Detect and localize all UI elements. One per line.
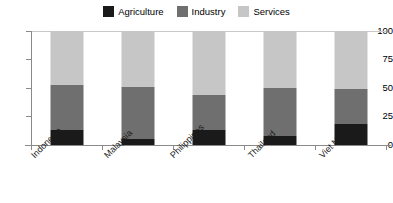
legend-swatch-industry (177, 6, 188, 17)
segment-services-thailand (263, 31, 296, 88)
bar-viet-nam[interactable] (334, 31, 367, 145)
legend-swatch-services (238, 6, 249, 17)
legend-label-services: Services (253, 6, 289, 17)
x-tick-1 (102, 145, 103, 150)
segment-services-malaysia (121, 31, 154, 87)
legend-item-agriculture: Agriculture (103, 6, 163, 17)
bar-slot-thailand (244, 31, 315, 145)
bar-slot-malaysia (102, 31, 173, 145)
bar-thailand[interactable] (263, 31, 296, 145)
bars-container (31, 31, 386, 145)
segment-services-viet-nam (334, 31, 367, 89)
segment-industry-viet-nam (334, 89, 367, 124)
legend-item-industry: Industry (177, 6, 226, 17)
stacked-bar-chart: Agriculture Industry Services 100 75 50 … (0, 0, 393, 203)
legend-item-services: Services (238, 6, 289, 17)
x-tick-3 (244, 145, 245, 150)
legend-swatch-agriculture (103, 6, 114, 17)
chart-legend: Agriculture Industry Services (0, 6, 393, 17)
legend-label-agriculture: Agriculture (118, 6, 163, 17)
x-tick-5 (386, 145, 387, 150)
segment-services-philippines (192, 31, 225, 95)
bar-slot-philippines (173, 31, 244, 145)
x-tick-4 (315, 145, 316, 150)
bar-slot-indonesia (31, 31, 102, 145)
segment-services-indonesia (50, 31, 83, 85)
bar-slot-viet-nam (315, 31, 386, 145)
segment-industry-indonesia (50, 85, 83, 131)
legend-label-industry: Industry (192, 6, 226, 17)
segment-industry-thailand (263, 88, 296, 136)
